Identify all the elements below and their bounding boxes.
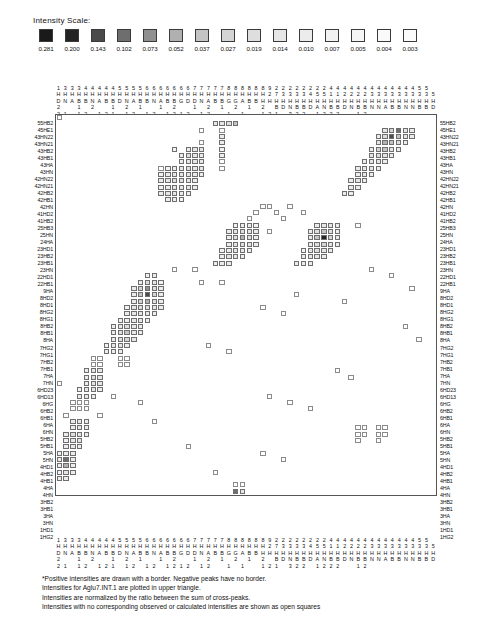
matrix-cell[interactable] bbox=[342, 191, 347, 196]
matrix-cell-open[interactable] bbox=[267, 229, 272, 234]
matrix-cell[interactable] bbox=[335, 235, 340, 240]
matrix-cell[interactable] bbox=[158, 305, 163, 310]
matrix-cell[interactable] bbox=[369, 153, 374, 158]
matrix-cell[interactable] bbox=[376, 140, 381, 145]
matrix-cell-open[interactable] bbox=[206, 343, 211, 348]
matrix-cell[interactable] bbox=[84, 387, 89, 392]
matrix-cell-open[interactable] bbox=[281, 311, 286, 316]
matrix-cell-open[interactable] bbox=[84, 400, 89, 405]
matrix-cell[interactable] bbox=[219, 153, 224, 158]
matrix-cell[interactable] bbox=[240, 489, 245, 494]
matrix-cell[interactable] bbox=[172, 185, 177, 190]
matrix-cell[interactable] bbox=[314, 223, 319, 228]
matrix-cell[interactable] bbox=[131, 299, 136, 304]
matrix-cell[interactable] bbox=[226, 248, 231, 253]
matrix-cell[interactable] bbox=[308, 242, 313, 247]
matrix-cell[interactable] bbox=[335, 223, 340, 228]
matrix-cell[interactable] bbox=[124, 330, 129, 335]
matrix-cell[interactable] bbox=[152, 299, 157, 304]
matrix-cell[interactable] bbox=[77, 394, 82, 399]
matrix-cell[interactable] bbox=[192, 166, 197, 171]
matrix-cell[interactable] bbox=[314, 248, 319, 253]
matrix-cell[interactable] bbox=[308, 248, 313, 253]
matrix-cell[interactable] bbox=[253, 242, 258, 247]
matrix-cell-open[interactable] bbox=[199, 140, 204, 145]
matrix-cell[interactable] bbox=[321, 254, 326, 259]
matrix-cell[interactable] bbox=[138, 311, 143, 316]
matrix-cell[interactable] bbox=[179, 197, 184, 202]
matrix-cell[interactable] bbox=[70, 444, 75, 449]
matrix-cell[interactable] bbox=[219, 121, 224, 126]
matrix-cell[interactable] bbox=[179, 185, 184, 190]
matrix-cell-open[interactable] bbox=[57, 381, 62, 386]
matrix-cell[interactable] bbox=[57, 470, 62, 475]
matrix-cell[interactable] bbox=[111, 337, 116, 342]
matrix-cell[interactable] bbox=[253, 223, 258, 228]
matrix-cell[interactable] bbox=[138, 292, 143, 297]
matrix-cell-open[interactable] bbox=[403, 324, 408, 329]
matrix-cell[interactable] bbox=[240, 242, 245, 247]
matrix-cell[interactable] bbox=[328, 235, 333, 240]
matrix-cell[interactable] bbox=[186, 185, 191, 190]
matrix-cell[interactable] bbox=[355, 166, 360, 171]
matrix-cell-open[interactable] bbox=[362, 425, 367, 430]
matrix-cell[interactable] bbox=[63, 463, 68, 468]
matrix-cell[interactable] bbox=[124, 324, 129, 329]
matrix-cell[interactable] bbox=[165, 185, 170, 190]
matrix-cell[interactable] bbox=[403, 128, 408, 133]
matrix-cell-open[interactable] bbox=[172, 267, 177, 272]
matrix-cell[interactable] bbox=[192, 185, 197, 190]
matrix-cell[interactable] bbox=[382, 128, 387, 133]
matrix-cell-open[interactable] bbox=[138, 400, 143, 405]
matrix-cell-open[interactable] bbox=[274, 210, 279, 215]
matrix-cell[interactable] bbox=[186, 166, 191, 171]
matrix-cell[interactable] bbox=[179, 166, 184, 171]
matrix-cell-open[interactable] bbox=[355, 432, 360, 437]
matrix-cell-open[interactable] bbox=[281, 216, 286, 221]
matrix-cell[interactable] bbox=[57, 463, 62, 468]
intensity-matrix[interactable] bbox=[55, 114, 437, 496]
matrix-cell[interactable] bbox=[226, 229, 231, 234]
matrix-cell[interactable] bbox=[192, 153, 197, 158]
matrix-cell[interactable] bbox=[233, 229, 238, 234]
matrix-cell[interactable] bbox=[179, 172, 184, 177]
matrix-cell[interactable] bbox=[192, 172, 197, 177]
matrix-cell-open[interactable] bbox=[376, 438, 381, 443]
matrix-cell[interactable] bbox=[84, 419, 89, 424]
matrix-cell[interactable] bbox=[131, 311, 136, 316]
matrix-cell[interactable] bbox=[111, 330, 116, 335]
matrix-cell[interactable] bbox=[179, 178, 184, 183]
matrix-cell[interactable] bbox=[301, 248, 306, 253]
matrix-cell-open[interactable] bbox=[267, 394, 272, 399]
matrix-cell-open[interactable] bbox=[118, 356, 123, 361]
matrix-cell[interactable] bbox=[247, 235, 252, 240]
matrix-cell[interactable] bbox=[233, 242, 238, 247]
matrix-cell[interactable] bbox=[362, 166, 367, 171]
matrix-cell[interactable] bbox=[376, 159, 381, 164]
matrix-cell[interactable] bbox=[253, 235, 258, 240]
matrix-cell-open[interactable] bbox=[409, 286, 414, 291]
matrix-cell[interactable] bbox=[63, 457, 68, 462]
matrix-cell[interactable] bbox=[328, 223, 333, 228]
matrix-cell[interactable] bbox=[376, 153, 381, 158]
matrix-cell[interactable] bbox=[219, 134, 224, 139]
matrix-cell[interactable] bbox=[348, 178, 353, 183]
matrix-cell[interactable] bbox=[124, 318, 129, 323]
matrix-cell[interactable] bbox=[240, 248, 245, 253]
matrix-cell-open[interactable] bbox=[97, 413, 102, 418]
matrix-cell[interactable] bbox=[186, 191, 191, 196]
matrix-cells[interactable] bbox=[56, 115, 436, 495]
matrix-cell[interactable] bbox=[240, 235, 245, 240]
matrix-cell[interactable] bbox=[382, 153, 387, 158]
matrix-cell[interactable] bbox=[172, 172, 177, 177]
matrix-cell[interactable] bbox=[199, 172, 204, 177]
matrix-cell[interactable] bbox=[247, 223, 252, 228]
matrix-cell[interactable] bbox=[172, 197, 177, 202]
matrix-cell[interactable] bbox=[362, 178, 367, 183]
matrix-cell[interactable] bbox=[186, 172, 191, 177]
matrix-cell[interactable] bbox=[131, 330, 136, 335]
matrix-cell-open[interactable] bbox=[362, 432, 367, 437]
matrix-cell[interactable] bbox=[355, 172, 360, 177]
matrix-cell[interactable] bbox=[131, 286, 136, 291]
matrix-cell[interactable] bbox=[77, 444, 82, 449]
